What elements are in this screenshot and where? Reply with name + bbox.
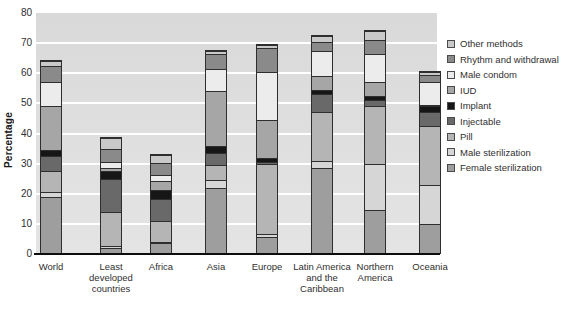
segment-pill [101,212,121,247]
segment-pill [312,112,332,160]
y-tick-label-20: 20 [10,189,32,199]
legend-label: Male condom [460,69,517,80]
segment-iud [365,82,385,96]
bar-latin-america-and-the-caribbean [311,35,333,254]
segment-iud [206,91,226,145]
legend-swatch-other-methods [447,40,455,48]
legend-swatch-rhythm-and-withdrawal [447,55,455,63]
bar-northern-america [364,30,386,254]
legend-label: Other methods [460,38,523,49]
legend-label: Injectable [460,116,501,127]
segment-male-condom [206,69,226,92]
segment-injectable [101,179,121,212]
segment-pill [420,126,440,185]
segment-male-condom [41,82,61,106]
segment-male-sterilization [365,164,385,211]
segment-pill [206,165,226,180]
bar-africa [150,154,172,254]
segment-pill [41,171,61,192]
legend-swatch-implant [447,102,455,110]
segment-male-condom [365,54,385,83]
segment-other-methods [151,155,171,163]
y-tick-label-80: 80 [10,8,32,18]
segment-rhythm-and-withdrawal [151,163,171,175]
bar-world [40,60,62,254]
y-tick-label-40: 40 [10,129,32,139]
legend-item-other-methods: Other methods [447,36,559,52]
legend-item-rhythm-and-withdrawal: Rhythm and withdrawal [447,52,559,68]
chart-legend: Other methodsRhythm and withdrawalMale c… [447,36,559,176]
segment-male-condom [420,82,440,105]
legend-label: Implant [460,100,491,111]
legend-label: IUD [460,85,476,96]
segment-iud [151,181,171,190]
y-tick-label-50: 50 [10,98,32,108]
legend-swatch-iud [447,86,455,94]
segment-rhythm-and-withdrawal [257,48,277,72]
legend-item-pill: Pill [447,129,559,145]
segment-male-sterilization [420,185,440,224]
legend-item-male-condom: Male condom [447,67,559,83]
segment-injectable [206,153,226,165]
segment-pill [365,106,385,163]
x-label-africa: Africa [130,261,192,272]
segment-injectable [312,94,332,112]
x-label-world: World [20,261,82,272]
segment-rhythm-and-withdrawal [101,149,121,163]
legend-label: Female sterilization [460,162,542,173]
segment-rhythm-and-withdrawal [420,75,440,83]
segment-female-sterilization [41,197,61,254]
x-label-northern-america: Northern America [344,261,406,283]
legend-item-male-sterilization: Male sterilization [447,145,559,161]
y-tick-label-0: 0 [10,249,32,259]
legend-item-implant: Implant [447,98,559,114]
segment-rhythm-and-withdrawal [41,66,61,83]
segment-implant [101,171,121,179]
legend-item-female-sterilization: Female sterilization [447,160,559,176]
segment-rhythm-and-withdrawal [206,54,226,69]
bar-asia [205,50,227,254]
y-tick-label-10: 10 [10,219,32,229]
legend-swatch-injectable [447,117,455,125]
segment-male-condom [257,72,277,120]
x-axis-line [34,253,440,255]
y-tick-label-70: 70 [10,38,32,48]
y-axis-title: Percentage [3,75,17,205]
segment-other-methods [365,31,385,40]
segment-pill [257,164,277,235]
segment-pill [151,221,171,242]
segment-injectable [151,199,171,222]
segment-injectable [420,112,440,126]
segment-injectable [41,156,61,171]
segment-female-sterilization [365,210,385,254]
segment-female-sterilization [206,188,226,254]
segment-implant [206,146,226,154]
legend-swatch-male-condom [447,71,455,79]
segment-male-condom [312,51,332,77]
legend-label: Pill [460,131,473,142]
segment-female-sterilization [420,224,440,254]
bar-oceania [419,71,441,254]
legend-item-injectable: Injectable [447,114,559,130]
bar-europe [256,44,278,254]
segment-female-sterilization [312,168,332,254]
segment-male-sterilization [312,161,332,169]
legend-swatch-pill [447,133,455,141]
x-label-europe: Europe [236,261,298,272]
legend-label: Male sterilization [460,147,531,158]
legend-swatch-male-sterilization [447,148,455,156]
segment-iud [41,106,61,150]
contraceptive-methods-stacked-bar-chart: Percentage 01020304050607080 WorldLeast … [0,0,571,318]
bar-least-developed-countries [100,137,122,254]
segment-iud [312,76,332,90]
segment-other-methods [101,138,121,149]
plot-area [36,13,437,254]
y-tick-label-60: 60 [10,68,32,78]
legend-swatch-female-sterilization [447,164,455,172]
x-label-oceania: Oceania [399,261,461,272]
segment-iud [257,120,277,158]
segment-rhythm-and-withdrawal [312,42,332,51]
segment-rhythm-and-withdrawal [365,40,385,54]
legend-item-iud: IUD [447,83,559,99]
segment-implant [151,190,171,199]
